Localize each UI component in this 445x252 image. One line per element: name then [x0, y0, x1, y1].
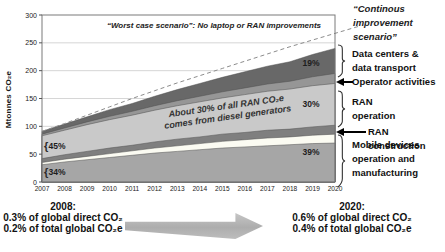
- legend-item-operator-activities: Operator activities: [352, 75, 435, 89]
- x-tick-label: 2012: [147, 185, 162, 192]
- percent-label: 19%: [302, 58, 319, 68]
- legend-item-ran-operation: RAN operation: [352, 95, 395, 123]
- x-tick-label: 2010: [102, 185, 117, 192]
- y-tick-label: 50: [29, 151, 37, 158]
- x-tick-label: 2009: [80, 185, 95, 192]
- y-tick-label: 150: [25, 95, 37, 102]
- footer-2008-year: 2008:: [2, 201, 124, 212]
- x-tick-label: 2016: [238, 185, 253, 192]
- percent-label: 45%: [48, 141, 65, 151]
- footer-2020-block: 2020: 0.6% of global direct CO₂ 0.4% of …: [262, 201, 442, 234]
- x-tick-label: 2018: [283, 185, 298, 192]
- x-tick-label: 2007: [35, 185, 50, 192]
- y-tick-label: 200: [25, 67, 37, 74]
- percent-label: 30%: [302, 99, 319, 109]
- y-tick-label: 300: [25, 12, 37, 19]
- continuous-improvement-label: “Continous improvement scenario”: [353, 2, 443, 44]
- y-tick-label: 100: [25, 123, 37, 130]
- footer-2020-line2: 0.4% of total global CO₂e: [262, 223, 442, 234]
- x-tick-label: 2014: [192, 185, 207, 192]
- brace-icon-data-centers: [338, 45, 345, 77]
- y-tick-label: 250: [25, 39, 37, 46]
- legend-item-data-centers: Data centers & data transport: [352, 47, 419, 75]
- y-axis-title: Mtonnes CO₂e: [4, 55, 13, 145]
- x-tick-label: 2015: [215, 185, 230, 192]
- legend-item-mobile-devices: Mobile devices operation and manufacturi…: [352, 138, 420, 180]
- x-tick-label: 2020: [328, 185, 343, 192]
- left-arrow-icon: [336, 78, 353, 86]
- brace-icon-ran-operation: [338, 91, 345, 127]
- left-arrow-icon: [336, 128, 366, 136]
- x-tick-label: 2013: [170, 185, 185, 192]
- footer-2020-year: 2020:: [262, 201, 442, 212]
- percent-label: 39%: [302, 147, 319, 157]
- footer-2008-block: 2008: 0.3% of global direct CO₂ 0.2% of …: [2, 201, 124, 234]
- worst-case-scenario-title: “Worst case scenario”: No laptop or RAN …: [68, 21, 360, 30]
- footer-2008-line1: 0.3% of global direct CO₂: [2, 212, 124, 223]
- brace-icon-mobile-devices: [338, 135, 345, 187]
- footer-2020-line1: 0.6% of global direct CO₂: [262, 212, 442, 223]
- footer-2008-line2: 0.2% of total global CO₂e: [2, 223, 124, 234]
- x-tick-label: 2008: [57, 185, 72, 192]
- x-tick-label: 2017: [260, 185, 275, 192]
- percent-label: 34%: [48, 167, 65, 177]
- chart-canvas: 0501001502002503002007200820092010201120…: [0, 0, 445, 252]
- x-tick-label: 2019: [305, 185, 320, 192]
- x-tick-label: 2011: [125, 185, 140, 192]
